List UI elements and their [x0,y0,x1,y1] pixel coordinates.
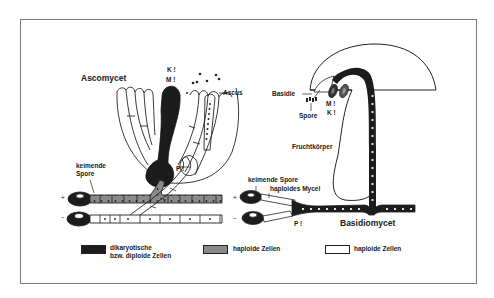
dikaryotic-hypha [146,86,180,187]
meiosis-label-asco: M ! [166,77,175,84]
legend-swatch-haploid-gray [203,245,228,254]
spore-label-basidio: Spore [299,113,317,120]
legend-label-haploid-gray: haploide Zellen [233,245,280,253]
karyogamy-label-basidio: K ! [327,110,336,117]
legend-swatch-dikaryotic [81,245,106,254]
ascospores-in-ascus [186,73,220,140]
germinating-spore-label-asco-line1: keimende [76,163,106,170]
fruiting-body-label: Fruchtkörper [292,144,332,151]
plus-sign-asco: + [61,195,65,202]
legend-label-haploid-white: haploide Zellen [354,245,401,253]
legend-swatch-haploid-white [325,245,350,254]
karyogamy-label-asco: K ! [167,67,176,74]
minus-sign-basidio: − [233,216,237,223]
minus-sign-asco: − [61,215,65,222]
germinating-spore-label-basidio: keimende Spore [248,177,298,184]
plus-sign-basidio: + [233,195,237,202]
legend-label-dikaryotic-line2: bzw. diploide Zellen [110,252,171,260]
life-cycle-diagram [0,0,494,298]
ascomycete-title: Ascomycet [81,74,126,83]
plasmogamy-label-basidio: P ! [294,221,302,228]
spore-leader-asco [90,180,94,193]
legend-label-dikaryotic-line1: dikaryotische [110,244,152,252]
ascus-label: Ascus [223,90,243,97]
basidiomycete-title: Basidiomycet [340,219,395,228]
basidium-label: Basidie [272,91,295,98]
haploid-mycelium-label: haploides Mycel [270,186,320,193]
plasmogamy-label-asco: P ! [176,166,184,173]
germinating-spore-label-asco-line2: Spore [76,171,94,178]
meiosis-label-basidio: M ! [326,101,335,108]
